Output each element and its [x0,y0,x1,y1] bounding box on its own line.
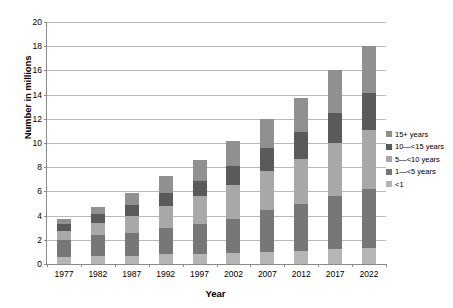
bar-segment[interactable] [159,206,173,228]
bar-segment[interactable] [294,251,308,264]
x-axis-tick-mark [352,264,353,267]
y-axis-tick-label: 12 [33,114,42,124]
x-axis-tick-label: 2007 [258,269,277,279]
bar-segment[interactable] [362,189,376,248]
bar-segment[interactable] [226,166,240,185]
bar-group[interactable] [294,98,308,264]
legend-item[interactable]: 5—<10 years [386,153,444,166]
x-axis-tick-mark [386,264,387,267]
bar-segment[interactable] [193,160,207,181]
bar-segment[interactable] [91,207,105,214]
bar-segment[interactable] [362,248,376,264]
bar-segment[interactable] [328,70,342,112]
x-axis-tick-mark [217,264,218,267]
bar-segment[interactable] [260,148,274,171]
bar-segment[interactable] [57,231,71,239]
bar-segment[interactable] [91,256,105,264]
x-axis-tick-label: 1982 [88,269,107,279]
bar-segment[interactable] [328,113,342,143]
bar-segment[interactable] [193,224,207,254]
legend-item[interactable]: <1 [386,178,444,191]
bar-segment[interactable] [159,254,173,264]
bar-group[interactable] [226,141,240,264]
bar-group[interactable] [328,70,342,264]
bar-segment[interactable] [362,130,376,189]
bar-segment[interactable] [125,233,139,256]
bar-group[interactable] [91,207,105,264]
bar-segment[interactable] [159,193,173,206]
bar-segment[interactable] [362,93,376,129]
bar-group[interactable] [159,176,173,264]
stacked-bar-chart: Number in millions 02468101214161820 197… [0,0,453,308]
y-axis-tick-label: 14 [33,90,42,100]
x-axis-tick-mark [183,264,184,267]
x-axis-tick-label: 1997 [190,269,209,279]
bar-segment[interactable] [193,254,207,264]
legend-item[interactable]: 10—<15 years [386,141,444,154]
bar-segment[interactable] [159,228,173,255]
bar-segment[interactable] [294,132,308,159]
bar-group[interactable] [362,46,376,264]
bar-group[interactable] [193,160,207,264]
bar-segment[interactable] [226,219,240,253]
bar-segment[interactable] [328,249,342,264]
legend-item[interactable]: 1—<5 years [386,166,444,179]
x-axis-tick-label: 1992 [156,269,175,279]
bar-segment[interactable] [362,46,376,93]
legend-swatch-icon [386,169,392,175]
bar-segment[interactable] [125,193,139,205]
y-axis-tick-label: 6 [37,186,42,196]
y-axis-tick-label: 20 [33,17,42,27]
bar-segment[interactable] [260,171,274,210]
x-axis-tick-label: 2017 [326,269,345,279]
y-axis-tick-label: 8 [37,162,42,172]
bar-segment[interactable] [57,240,71,257]
y-axis-title: Number in millions [22,33,33,163]
bars-layer [47,22,386,264]
bar-segment[interactable] [91,223,105,235]
bar-group[interactable] [57,219,71,264]
y-axis-tick-label: 2 [37,235,42,245]
bar-segment[interactable] [57,224,71,231]
bar-segment[interactable] [260,119,274,148]
bar-segment[interactable] [226,253,240,264]
y-axis-tick-label: 16 [33,65,42,75]
bar-segment[interactable] [226,185,240,219]
bar-segment[interactable] [294,204,308,251]
y-axis-tick-label: 4 [37,211,42,221]
bar-segment[interactable] [125,216,139,233]
bar-segment[interactable] [193,181,207,197]
bar-segment[interactable] [328,143,342,196]
x-axis-tick-mark [149,264,150,267]
bar-segment[interactable] [91,235,105,256]
legend-swatch-icon [386,156,392,162]
x-axis-tick-mark [250,264,251,267]
bar-segment[interactable] [294,159,308,204]
bar-group[interactable] [125,193,139,264]
bar-segment[interactable] [125,256,139,264]
legend-item-label: 15+ years [395,130,428,139]
x-axis-tick-mark [284,264,285,267]
bar-segment[interactable] [328,196,342,249]
x-axis-tick-label: 1977 [54,269,73,279]
x-axis-tick-label: 2012 [292,269,311,279]
legend-item-label: 10—<15 years [395,142,444,151]
y-axis-tick-label: 18 [33,41,42,51]
bar-segment[interactable] [91,214,105,222]
bar-segment[interactable] [260,210,274,252]
legend-swatch-icon [386,181,392,187]
bar-segment[interactable] [159,176,173,193]
x-axis-tick-mark [81,264,82,267]
bar-segment[interactable] [193,196,207,224]
legend-item-label: 1—<5 years [395,167,436,176]
bar-segment[interactable] [294,98,308,132]
bar-segment[interactable] [226,141,240,166]
y-axis-tick-label: 10 [33,138,42,148]
legend-item[interactable]: 15+ years [386,128,444,141]
bar-segment[interactable] [57,257,71,264]
bar-group[interactable] [260,119,274,264]
y-axis-tick-label: 0 [37,259,42,269]
bar-segment[interactable] [125,205,139,216]
legend-item-label: 5—<10 years [395,155,440,164]
bar-segment[interactable] [260,252,274,264]
